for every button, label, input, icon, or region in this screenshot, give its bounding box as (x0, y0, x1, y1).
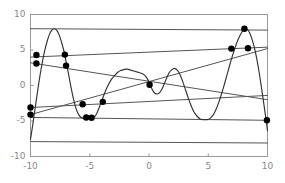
y-tick-label: 0 (0, 80, 26, 90)
intersection-point (228, 45, 234, 51)
x-tick-label: -10 (11, 161, 51, 171)
y-tick-label: -5 (0, 115, 26, 125)
intersection-point (146, 82, 152, 88)
intersection-point (245, 45, 251, 51)
intersection-point (63, 62, 69, 68)
intersection-point (33, 52, 39, 58)
intersection-point (264, 117, 270, 123)
x-tick-label: 10 (248, 161, 285, 171)
lower-slope-line (31, 95, 268, 107)
bottom-horizontal-line (31, 142, 268, 143)
intersection-point (27, 111, 33, 117)
intersection-point (33, 60, 39, 66)
y-tick-label: 10 (0, 9, 26, 19)
intersection-markers (27, 26, 270, 124)
intersection-point (27, 104, 33, 110)
intersection-point (79, 101, 85, 107)
intersection-point (88, 115, 94, 121)
y-tick-label: 5 (0, 44, 26, 54)
top-horizontal-line (31, 29, 268, 30)
shallow-line (31, 117, 268, 120)
plot-canvas (0, 0, 284, 183)
x-tick-label: 5 (188, 161, 228, 171)
intersection-point (241, 26, 247, 32)
intersection-point (62, 51, 68, 57)
chart-figure: -10-50510 1050-5-10 (0, 0, 284, 183)
y-tick-label: -10 (0, 151, 26, 161)
intersection-point (100, 99, 106, 105)
x-tick-label: 0 (129, 161, 169, 171)
x-tick-label: -5 (70, 161, 110, 171)
